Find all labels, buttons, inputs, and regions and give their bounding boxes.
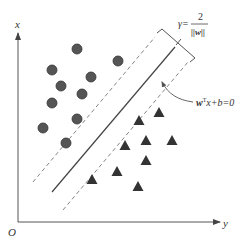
triangle-point: [134, 115, 145, 125]
circle-point: [77, 89, 87, 99]
circle-point: [86, 72, 96, 82]
lower-margin-line: [63, 62, 188, 210]
upper-margin-line: [33, 37, 155, 182]
circle-point: [56, 81, 66, 91]
class-b-points: [87, 107, 178, 191]
class-a-points: [38, 44, 123, 148]
margin-bracket-shape: [157, 29, 195, 62]
vertical-axis-label: x: [14, 18, 20, 30]
triangle-point: [120, 140, 131, 150]
margin-numerator: 2: [198, 11, 203, 22]
circle-point: [47, 65, 57, 75]
circle-point: [61, 138, 71, 148]
triangle-point: [167, 135, 178, 145]
origin-label: O: [8, 226, 16, 238]
svm-diagram: x y O γ= 2 ||w|| wTx+b=0: [0, 0, 243, 247]
circle-point: [72, 114, 82, 124]
circle-point: [38, 123, 48, 133]
triangle-point: [141, 135, 152, 145]
triangle-point: [154, 107, 165, 117]
circle-point: [113, 56, 123, 66]
annotation-arrow: [162, 82, 193, 102]
margin-denominator: ||w||: [191, 27, 205, 37]
circle-point: [47, 98, 57, 108]
margin-formula: γ= 2 ||w||: [178, 11, 208, 37]
triangle-point: [112, 166, 123, 176]
margin-bracket: [157, 29, 195, 62]
decision-boundary-line: [52, 47, 175, 192]
gamma-symbol: γ=: [178, 18, 189, 29]
triangle-point: [133, 181, 144, 191]
circle-point: [72, 44, 82, 54]
hyperplane-equation: wTx+b=0: [196, 97, 234, 108]
hyperplane-annotation: wTx+b=0: [162, 82, 234, 108]
triangle-point: [87, 174, 98, 184]
hyperplanes: [33, 37, 188, 210]
triangle-point: [141, 155, 152, 165]
svm-diagram-canvas: x y O γ= 2 ||w|| wTx+b=0: [0, 0, 243, 247]
horizontal-axis-label: y: [222, 217, 228, 229]
